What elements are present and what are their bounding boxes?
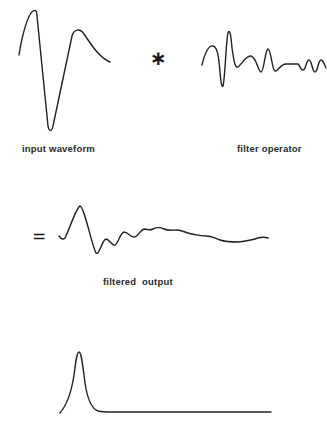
filter-operator-trace — [202, 31, 326, 86]
equals-sign: = — [32, 226, 46, 246]
desired-spike-trace — [60, 352, 271, 413]
input-waveform-trace — [19, 10, 110, 130]
filtered-output-trace — [59, 206, 268, 253]
filter-operator-label: filter operator — [237, 143, 302, 154]
filtered-output-label: filtered output — [103, 276, 173, 287]
input-waveform-label: input waveform — [22, 143, 95, 154]
convolution-operator-icon: ∗ — [150, 46, 167, 70]
